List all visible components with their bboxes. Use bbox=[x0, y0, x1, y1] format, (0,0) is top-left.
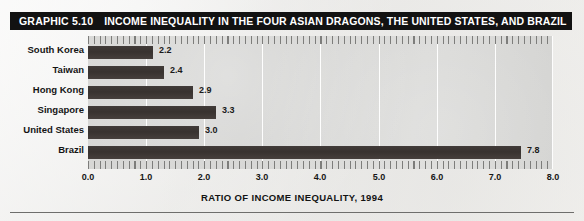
category-label-singapore: Singapore bbox=[0, 104, 84, 115]
graphic-figure: GRAPHIC 5.10 INCOME INEQUALITY IN THE FO… bbox=[0, 0, 584, 221]
bar-row-hong-kong: 2.9 bbox=[88, 86, 553, 99]
bar-taiwan bbox=[88, 66, 164, 79]
x-tick-3: 3.0 bbox=[256, 172, 269, 182]
category-label-taiwan: Taiwan bbox=[0, 64, 84, 75]
graphic-number-label: GRAPHIC 5.10 bbox=[10, 15, 93, 27]
bar-brazil bbox=[88, 146, 521, 159]
x-tick-6: 6.0 bbox=[431, 172, 444, 182]
bar-south-korea bbox=[88, 46, 153, 59]
graphic-title-bar: GRAPHIC 5.10 INCOME INEQUALITY IN THE FO… bbox=[10, 12, 572, 30]
x-tick-8: 8.0 bbox=[547, 172, 560, 182]
bar-row-taiwan: 2.4 bbox=[88, 66, 553, 79]
tick-ruler-top bbox=[88, 36, 553, 44]
bar-row-brazil: 7.8 bbox=[88, 146, 553, 159]
bar-value-brazil: 7.8 bbox=[527, 145, 540, 155]
category-axis-labels: South Korea Taiwan Hong Kong Singapore U… bbox=[0, 44, 84, 161]
bar-singapore bbox=[88, 106, 216, 119]
x-axis-title: RATIO OF INCOME INEQUALITY, 1994 bbox=[0, 192, 584, 203]
bar-row-south-korea: 2.2 bbox=[88, 46, 553, 59]
bar-value-singapore: 3.3 bbox=[222, 105, 235, 115]
bar-row-singapore: 3.3 bbox=[88, 106, 553, 119]
x-tick-4: 4.0 bbox=[314, 172, 327, 182]
x-tick-7: 7.0 bbox=[489, 172, 502, 182]
bar-value-taiwan: 2.4 bbox=[170, 65, 183, 75]
bar-row-united-states: 3.0 bbox=[88, 126, 553, 139]
bar-value-united-states: 3.0 bbox=[205, 125, 218, 135]
x-tick-2: 2.0 bbox=[198, 172, 211, 182]
tick-ruler-bottom bbox=[88, 161, 553, 169]
graphic-title-text: INCOME INEQUALITY IN THE FOUR ASIAN DRAG… bbox=[93, 15, 566, 27]
category-label-united-states: United States bbox=[0, 124, 84, 135]
category-label-brazil: Brazil bbox=[0, 144, 84, 155]
x-tick-5: 5.0 bbox=[373, 172, 386, 182]
category-label-south-korea: South Korea bbox=[0, 44, 84, 55]
plot-area: 2.2 2.4 2.9 3.3 3.0 7.8 bbox=[88, 36, 553, 169]
bar-value-south-korea: 2.2 bbox=[159, 45, 172, 55]
bar-value-hong-kong: 2.9 bbox=[199, 85, 212, 95]
bottom-rule bbox=[10, 212, 574, 213]
bar-hong-kong bbox=[88, 86, 193, 99]
x-tick-1: 1.0 bbox=[140, 172, 153, 182]
x-tick-0: 0.0 bbox=[82, 172, 95, 182]
bar-series: 2.2 2.4 2.9 3.3 3.0 7.8 bbox=[88, 44, 553, 161]
x-axis-tick-labels: 0.0 1.0 2.0 3.0 4.0 5.0 6.0 7.0 8.0 bbox=[0, 172, 584, 185]
category-label-hong-kong: Hong Kong bbox=[0, 84, 84, 95]
bar-united-states bbox=[88, 126, 199, 139]
